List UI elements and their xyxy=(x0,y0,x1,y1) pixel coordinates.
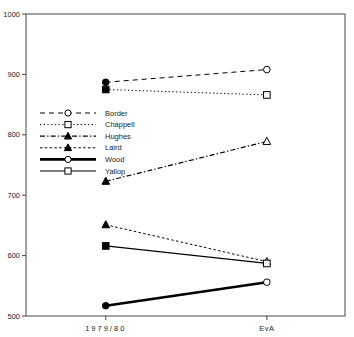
y-tick-label: 600 xyxy=(7,251,20,260)
legend-label: Yallop xyxy=(105,167,125,176)
square-marker xyxy=(65,122,71,128)
square-marker xyxy=(264,92,271,99)
circle-marker xyxy=(102,79,109,86)
y-tick-label: 500 xyxy=(7,312,20,321)
y-tick-label: 700 xyxy=(7,191,20,200)
legend-label: Chappell xyxy=(105,120,135,129)
series-line xyxy=(106,246,267,264)
legend-item-chappell: Chappell xyxy=(40,120,135,129)
circle-marker xyxy=(264,279,271,286)
legend-label: Laird xyxy=(105,143,122,152)
series-line xyxy=(106,141,267,181)
series-hughes xyxy=(102,137,271,184)
x-tick-label: 1979/80 xyxy=(85,324,126,333)
circle-marker xyxy=(102,302,109,309)
series-wood xyxy=(102,279,270,309)
chart-container: AUSTRALIAN BATSMEN 1980 1000900800700600… xyxy=(0,0,354,337)
plot-border xyxy=(26,14,345,316)
legend-item-hughes: Hughes xyxy=(40,132,131,141)
circle-marker xyxy=(65,156,71,162)
legend-item-border: Border xyxy=(40,109,128,118)
x-axis: 1979/80EvA xyxy=(85,316,274,333)
circle-marker xyxy=(65,110,71,116)
square-marker xyxy=(102,86,109,93)
triangle-marker xyxy=(102,221,110,228)
y-axis: 1000900800700600500 xyxy=(3,10,26,321)
legend-item-wood: Wood xyxy=(40,155,124,164)
y-tick-label: 900 xyxy=(7,70,20,79)
square-marker xyxy=(65,168,71,174)
square-marker xyxy=(264,260,271,267)
triangle-marker xyxy=(64,144,71,151)
series-line xyxy=(106,90,267,95)
legend-label: Border xyxy=(105,109,128,118)
slope-chart: 10009008007006005001979/80EvABorderChapp… xyxy=(0,0,354,337)
legend-item-laird: Laird xyxy=(40,143,122,152)
legend-label: Wood xyxy=(105,155,124,164)
y-tick-label: 800 xyxy=(7,130,20,139)
triangle-marker xyxy=(263,137,271,144)
legend: BorderChappellHughesLairdWoodYallop xyxy=(40,109,135,176)
series-laird xyxy=(102,221,271,265)
x-tick-label: EvA xyxy=(259,324,274,333)
series-line xyxy=(106,70,267,83)
legend-item-yallop: Yallop xyxy=(40,167,125,176)
square-marker xyxy=(102,243,109,250)
circle-marker xyxy=(264,66,271,73)
series-yallop xyxy=(102,243,270,267)
series-line xyxy=(106,225,267,262)
series-line xyxy=(106,282,267,306)
series-border xyxy=(102,66,270,85)
legend-label: Hughes xyxy=(105,132,131,141)
series-chappell xyxy=(102,86,270,98)
y-tick-label: 1000 xyxy=(3,10,20,19)
